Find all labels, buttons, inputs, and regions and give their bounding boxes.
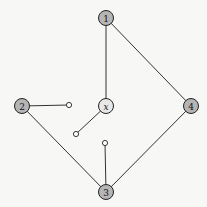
node-x: x xyxy=(99,99,114,114)
graph-diagram: 12x43 xyxy=(0,0,207,207)
node-label: 1 xyxy=(103,14,109,24)
node-1: 1 xyxy=(99,11,114,26)
edge-1-4 xyxy=(106,18,191,106)
stub-endpoint-sx xyxy=(73,131,78,136)
edge-2-3 xyxy=(22,106,106,192)
edge-4-3 xyxy=(106,106,191,192)
stub-endpoint-s2 xyxy=(66,102,71,107)
node-3: 3 xyxy=(99,185,114,200)
stub-endpoint-s3 xyxy=(102,140,107,145)
node-2: 2 xyxy=(15,99,30,114)
node-label: 3 xyxy=(103,188,109,198)
node-label: 4 xyxy=(188,102,194,112)
node-4: 4 xyxy=(184,99,199,114)
node-label: x xyxy=(103,102,108,112)
node-label: 2 xyxy=(19,102,25,112)
